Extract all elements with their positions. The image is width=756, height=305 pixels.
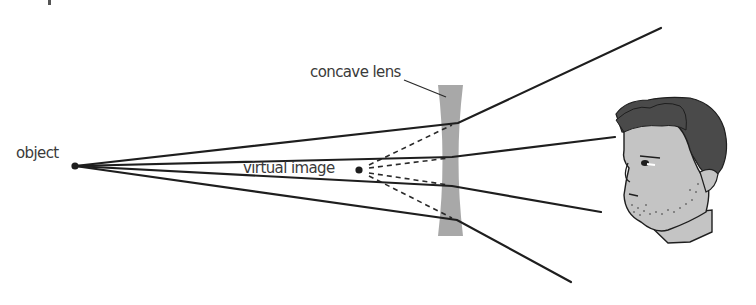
concave-lens-diagram: object concave lens virtual image: [0, 0, 756, 305]
ray-3: [75, 166, 601, 212]
ray-2: [75, 137, 615, 166]
lens-label: concave lens: [310, 63, 402, 81]
object-label: object: [16, 144, 59, 162]
virtual-image-label: virtual image: [243, 159, 335, 177]
ray-1: [75, 28, 661, 166]
ray-4: [75, 166, 571, 282]
object-point: [71, 162, 78, 169]
observer-head-icon: [616, 97, 727, 243]
virtual-rays: [369, 125, 452, 218]
crop-artifact: [48, 0, 51, 5]
virtual-image-point: [355, 166, 362, 173]
